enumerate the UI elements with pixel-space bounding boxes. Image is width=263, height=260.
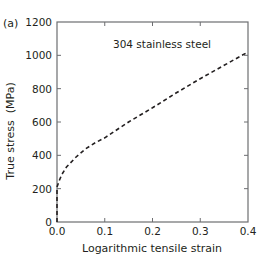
material-annotation: 304 stainless steel (113, 38, 211, 50)
x-tick-label: 0.3 (192, 225, 209, 237)
axis-ticks (57, 22, 248, 222)
y-tick-label: 200 (32, 183, 52, 195)
stress-strain-curve (57, 52, 248, 222)
y-tick-label: 0 (45, 216, 52, 228)
panel-label: (a) (3, 17, 18, 30)
plot-border (57, 22, 248, 222)
y-axis-label: True stress (MPa) (4, 82, 17, 180)
plot-frame (57, 22, 248, 222)
y-tick-label: 400 (32, 149, 52, 161)
y-tick-label: 600 (32, 116, 52, 128)
x-axis-label: Logarithmic tensile strain (82, 242, 222, 255)
stress-strain-chart: 0.00.10.20.30.4020040060080010001200 (a)… (0, 0, 263, 260)
x-tick-label: 0.2 (144, 225, 161, 237)
y-tick-label: 1000 (25, 49, 52, 61)
y-tick-label: 800 (32, 83, 52, 95)
y-tick-label: 1200 (25, 16, 52, 28)
x-tick-label: 0.1 (96, 225, 113, 237)
x-tick-label: 0.4 (240, 225, 257, 237)
